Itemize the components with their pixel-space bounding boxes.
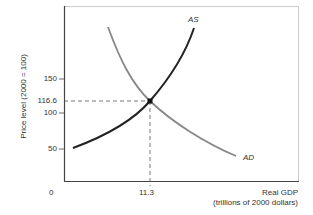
y-tick-50: 50 [27, 144, 57, 153]
y-tick-150: 150 [27, 74, 57, 83]
y-axis-label: Price level (2000 = 100) [19, 52, 28, 142]
plot-frame [65, 7, 299, 182]
y-tick-100: 100 [27, 108, 57, 117]
x-tick-0: 0 [49, 188, 53, 197]
ad-label: AD [243, 153, 254, 162]
ad-curve [108, 27, 236, 156]
as-curve [73, 28, 194, 148]
x-axis-label-line1: Real GDP [262, 188, 298, 197]
y-tick-116-6: 116.6 [27, 96, 57, 105]
x-tick-11-3: 11.3 [139, 188, 154, 197]
x-axis-label-line2: (trillions of 2000 dollars) [213, 198, 298, 207]
equilibrium-point [148, 99, 153, 104]
as-label: AS [188, 15, 199, 24]
